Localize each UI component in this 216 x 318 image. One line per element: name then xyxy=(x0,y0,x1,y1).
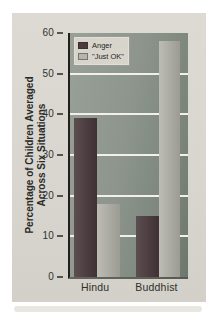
y-tick-mark-60 xyxy=(57,32,63,34)
bar-buddhist-just-ok xyxy=(159,41,180,277)
y-tick-label-0: 0 xyxy=(48,271,54,282)
x-label-hindu: Hindu xyxy=(81,281,109,293)
y-tick-label-10: 10 xyxy=(42,230,54,241)
legend-item-anger: Anger xyxy=(78,40,124,51)
bar-shading xyxy=(159,41,180,277)
y-tick-mark-20 xyxy=(57,195,63,197)
bar-shading xyxy=(97,204,120,277)
y-axis: 0102030405060 xyxy=(12,33,64,277)
y-tick-label-50: 50 xyxy=(42,68,54,79)
bar-shading xyxy=(74,118,97,277)
y-tick-mark-30 xyxy=(57,154,63,156)
legend-swatch-anger xyxy=(78,42,88,49)
legend-item-just-ok: "Just OK" xyxy=(78,51,124,62)
x-label-buddhist: Buddhist xyxy=(135,281,177,293)
bar-hindu-just-ok xyxy=(97,204,120,277)
y-tick-mark-40 xyxy=(57,113,63,115)
plot-area: Anger "Just OK" xyxy=(68,33,188,279)
legend-label-anger: Anger xyxy=(92,41,112,50)
y-tick-mark-10 xyxy=(57,235,63,237)
y-tick-label-30: 30 xyxy=(42,149,54,160)
figure-panel: Percentage of Children Averaged Across S… xyxy=(12,13,206,302)
y-tick-mark-0 xyxy=(57,276,63,278)
legend: Anger "Just OK" xyxy=(73,36,130,66)
y-tick-mark-50 xyxy=(57,73,63,75)
bar-buddhist-anger xyxy=(136,216,159,277)
bar-shading xyxy=(136,216,159,277)
page-scan-smudge xyxy=(14,306,202,312)
figure-canvas: Percentage of Children Averaged Across S… xyxy=(0,0,216,318)
y-tick-label-40: 40 xyxy=(42,108,54,119)
legend-label-just-ok: "Just OK" xyxy=(92,52,124,61)
y-tick-label-60: 60 xyxy=(42,27,54,38)
x-axis: Hindu Buddhist xyxy=(68,281,186,295)
legend-swatch-just-ok xyxy=(78,53,88,60)
bar-hindu-anger xyxy=(74,118,97,277)
y-tick-label-20: 20 xyxy=(42,190,54,201)
